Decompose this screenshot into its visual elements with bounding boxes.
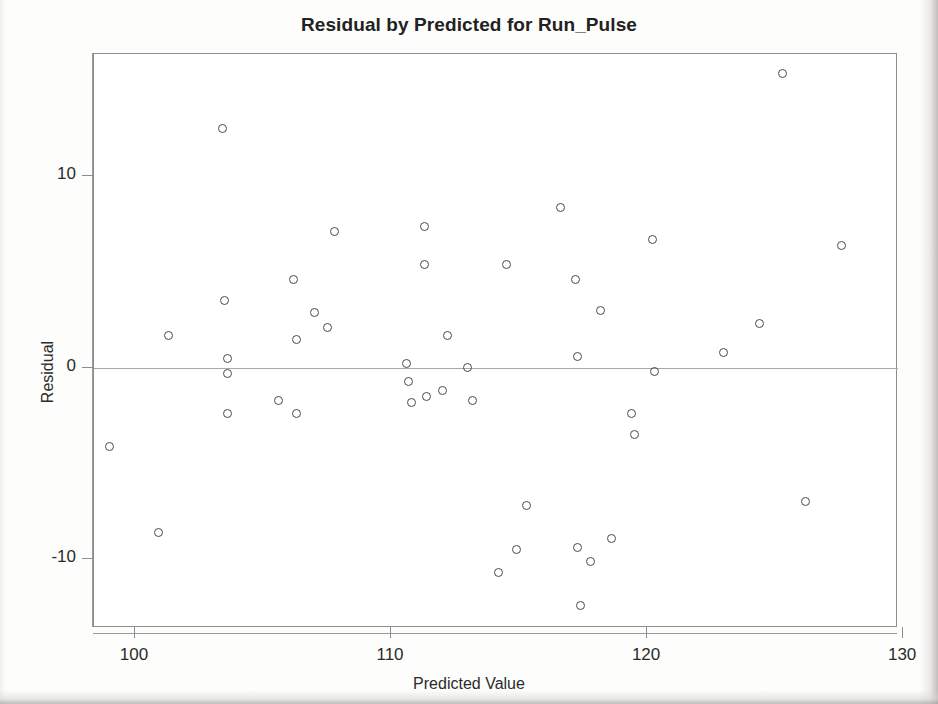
data-point (648, 235, 657, 244)
data-point (778, 69, 787, 78)
data-point (443, 331, 452, 340)
data-point (627, 409, 636, 418)
data-point (323, 323, 332, 332)
data-point (573, 543, 582, 552)
data-point (220, 296, 229, 305)
zero-reference-line (94, 368, 898, 369)
data-point (801, 497, 810, 506)
page-edge-right-shadow (920, 0, 938, 704)
x-axis-tick (646, 627, 647, 638)
data-point (404, 377, 413, 386)
data-point (502, 260, 511, 269)
data-point (586, 557, 595, 566)
x-axis-tick (134, 627, 135, 638)
data-point (292, 335, 301, 344)
data-point (576, 601, 585, 610)
x-axis-tick-label: 120 (616, 645, 676, 665)
data-point (556, 203, 565, 212)
data-point (719, 348, 728, 357)
data-point (292, 409, 301, 418)
data-point (607, 534, 616, 543)
chart-title: Residual by Predicted for Run_Pulse (0, 14, 938, 36)
data-point (223, 409, 232, 418)
data-point (407, 398, 416, 407)
y-axis-title: Residual (39, 292, 57, 452)
data-point (596, 306, 605, 315)
data-point (164, 331, 173, 340)
x-axis-tick-label: 110 (360, 645, 420, 665)
data-point (422, 392, 431, 401)
y-axis-title-wrapper: Residual (20, 53, 60, 627)
y-axis-tick (82, 175, 93, 176)
data-point (438, 386, 447, 395)
scatter-plot-area (93, 53, 897, 627)
page-edge-left-shadow (0, 0, 6, 704)
data-point (468, 396, 477, 405)
data-point (223, 354, 232, 363)
data-point (420, 260, 429, 269)
x-axis-line (93, 633, 897, 634)
data-point (512, 545, 521, 554)
data-point (274, 396, 283, 405)
data-point (522, 501, 531, 510)
data-point (289, 275, 298, 284)
x-axis-tick-label: 130 (872, 645, 932, 665)
data-point (154, 528, 163, 537)
x-axis-tick (390, 627, 391, 638)
data-point (463, 363, 472, 372)
data-point (330, 227, 339, 236)
y-axis-tick (82, 367, 93, 368)
y-axis-line (92, 53, 93, 627)
data-point (571, 275, 580, 284)
data-point (420, 222, 429, 231)
data-point (223, 369, 232, 378)
y-axis-tick (82, 558, 93, 559)
x-axis-tick-label: 100 (104, 645, 164, 665)
x-axis-tick (902, 627, 903, 638)
data-point (494, 568, 503, 577)
data-point (310, 308, 319, 317)
scanned-page-background: Residual by Predicted for Run_Pulse 100-… (0, 0, 938, 704)
x-axis-title: Predicted Value (0, 675, 938, 693)
data-point (218, 124, 227, 133)
data-point (105, 442, 114, 451)
data-point (837, 241, 846, 250)
data-point (755, 319, 764, 328)
data-point (650, 367, 659, 376)
data-point (630, 430, 639, 439)
data-point (573, 352, 582, 361)
